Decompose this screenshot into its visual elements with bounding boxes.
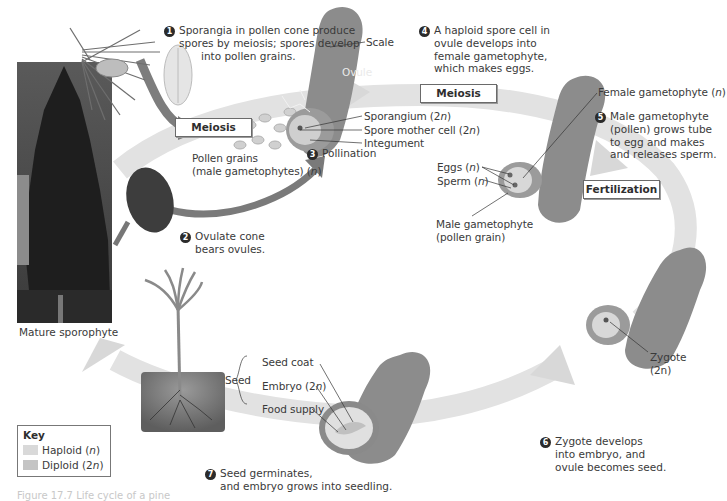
- mature-sporophyte-label: Mature sporophyte: [19, 326, 118, 338]
- figure-caption: Figure 17.7 Life cycle of a pine: [17, 490, 170, 501]
- step-1-text: 1Sporangia in pollen cone produce spores…: [164, 24, 360, 62]
- key-item-haploid: Haploid (n): [23, 444, 100, 456]
- female-gametophyte-label: Female gametophyte (n): [598, 86, 726, 99]
- seed-coat-label: Seed coat: [262, 356, 313, 369]
- ovule-label: Ovule: [342, 66, 372, 79]
- integument-label: Integument: [364, 137, 424, 150]
- step-6-badge: 6: [540, 437, 551, 448]
- spore-mother-cell-label: Spore mother cell (2n): [364, 124, 480, 137]
- zygote-label: Zygote (2n): [650, 351, 686, 376]
- pine-life-cycle-diagram: Meiosis Meiosis Fertilization 1Sporangia…: [0, 0, 727, 501]
- sporangium-label: Sporangium (2n): [364, 110, 451, 123]
- key-item-diploid: Diploid (2n): [23, 459, 103, 471]
- cycle-arrowheads: [82, 72, 628, 420]
- step-4-text: 4A haploid spore cell in ovule develops …: [419, 24, 550, 75]
- scale-label: Scale: [366, 36, 394, 49]
- step-4-badge: 4: [419, 26, 430, 37]
- key-title: Key: [23, 429, 45, 441]
- step-5-badge: 5: [595, 112, 606, 123]
- step-2-badge: 2: [180, 232, 191, 243]
- meiosis-box-right: Meiosis: [420, 84, 497, 103]
- haploid-swatch: [23, 445, 38, 455]
- step-6-text: 6Zygote develops into embryo, and ovule …: [540, 435, 666, 473]
- fertilization-box: Fertilization: [583, 180, 660, 199]
- diploid-swatch: [23, 460, 38, 470]
- seedling: [141, 268, 225, 432]
- scale-with-seed: [319, 352, 430, 464]
- step-5-text: 5Male gametophyte (pollen) grows tube to…: [595, 110, 716, 161]
- step-7-badge: 7: [205, 469, 216, 480]
- sperm-label: Sperm (n): [437, 175, 488, 188]
- male-gametophyte-label: Male gametophyte (pollen grain): [436, 218, 533, 243]
- legend-key: Key Haploid (n) Diploid (2n): [17, 425, 111, 477]
- meiosis-box-left: Meiosis: [175, 118, 252, 137]
- pollen-grains-label: Pollen grains (male gametophytes) (n): [192, 152, 321, 177]
- embryo-label: Embryo (2n): [262, 380, 326, 393]
- step-7-text: 7Seed germinates, and embryo grows into …: [205, 467, 392, 493]
- step-2-text: 2Ovulate cone bears ovules.: [180, 230, 265, 256]
- food-supply-label: Food supply: [262, 403, 324, 416]
- eggs-label: Eggs (n): [437, 161, 480, 174]
- seed-label: Seed: [225, 374, 251, 387]
- step-1-badge: 1: [164, 26, 175, 37]
